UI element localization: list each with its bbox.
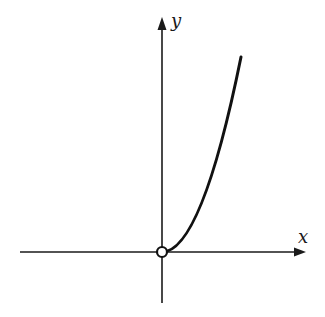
x-axis-arrow-icon (294, 248, 306, 257)
graph-canvas: y x (0, 0, 325, 317)
origin-open-circle (157, 247, 167, 257)
x-axis-label: x (298, 228, 308, 246)
y-axis-label: y (171, 12, 181, 30)
function-curve (162, 57, 241, 252)
graph-svg (0, 0, 325, 317)
y-axis-arrow-icon (158, 17, 167, 30)
